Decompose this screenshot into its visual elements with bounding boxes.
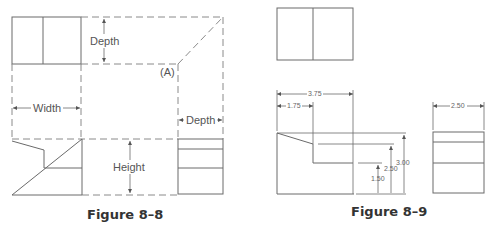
front-view: [277, 133, 354, 194]
dim-1-75: 1.75: [287, 102, 301, 109]
figure-caption: Figure 8–9: [351, 204, 427, 219]
depth-label-top: Depth: [90, 35, 119, 47]
width-label: Width: [33, 102, 61, 114]
figure-8-9: 3.75 1.75 1.50 2.50 3.00 2.50 Figure 8–9: [277, 8, 484, 219]
top-view: [277, 8, 353, 60]
top-view: [12, 17, 81, 64]
dim-2-50-height: 2.50: [384, 165, 398, 172]
dim-3-00: 3.00: [396, 159, 410, 166]
figure-caption: Figure 8–8: [87, 207, 163, 222]
side-view: [178, 139, 223, 194]
dim-2-50-depth: 2.50: [451, 102, 465, 109]
dim-3-75: 3.75: [308, 90, 322, 97]
orthographic-projection-figures: Depth (A) Width Depth Height Figure 8–8: [0, 0, 499, 227]
front-view: [12, 139, 82, 195]
side-view: [433, 132, 484, 193]
point-a-label: (A): [160, 66, 175, 78]
figure-8-8: Depth (A) Width Depth Height Figure 8–8: [12, 17, 223, 222]
dim-1-50: 1.50: [371, 175, 385, 182]
height-label: Height: [113, 161, 145, 173]
depth-label-side: Depth: [186, 114, 215, 126]
